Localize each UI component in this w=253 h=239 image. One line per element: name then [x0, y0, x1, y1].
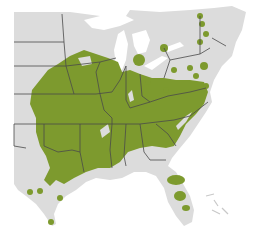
range-dot-texas-1: [27, 189, 33, 195]
range-dot-ne-7: [171, 67, 177, 73]
range-dot-ne-6: [133, 54, 145, 66]
bahamas-islands: [206, 194, 228, 214]
range-dot-ne-11: [163, 87, 169, 93]
map-canvas: [0, 0, 253, 239]
range-dot-ne-10: [145, 79, 151, 85]
range-dot-texas-4: [48, 219, 54, 225]
range-dot-ne-9: [200, 62, 208, 70]
range-patch-florida-central: [174, 191, 186, 201]
range-dot-ne-3: [203, 31, 209, 37]
range-dot-west-1: [31, 97, 37, 103]
range-dot-texas-2: [37, 188, 43, 194]
range-map: [0, 0, 253, 239]
range-dot-ne-12: [193, 73, 199, 79]
range-dot-texas-3: [57, 195, 63, 201]
range-patch-florida-south: [182, 205, 190, 211]
range-patch-florida-north: [167, 175, 185, 185]
range-dot-ne-8: [187, 65, 193, 71]
